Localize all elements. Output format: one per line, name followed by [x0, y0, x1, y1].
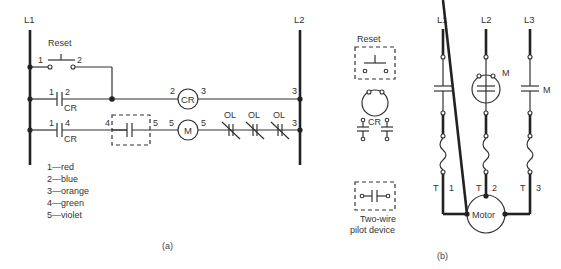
contact-tag: CR: [64, 134, 77, 144]
fuse-heater-l1: [440, 138, 446, 170]
wiring-diagram: L1 L2 Reset 1 2 1 2 CR: [0, 0, 561, 269]
terminal-label: 2: [492, 183, 497, 193]
wire-label: 5: [153, 118, 158, 128]
pilot-symbol-label: pilot device: [350, 225, 395, 235]
terminal-label: T: [520, 183, 526, 193]
caption-a: (a): [162, 241, 173, 251]
wire-color-code: 1—red 2—blue 3—orange 4—green 5—violet: [47, 162, 89, 220]
wire-label: 3: [292, 118, 297, 128]
line-label-l3: L3: [524, 14, 535, 25]
contactor-label: M: [502, 68, 510, 78]
symbol-legend: Reset CR Two-wire pilot device: [350, 34, 396, 235]
ol-label: OL: [273, 110, 285, 120]
contactor-label: M: [543, 85, 551, 95]
figure-a-ladder: L1 L2 Reset 1 2 1 2 CR: [24, 14, 305, 251]
ol-label: OL: [224, 110, 236, 120]
rail-label-l2: L2: [294, 14, 305, 25]
figure-b-power: L1 L2 L3 M: [433, 0, 551, 261]
wire-label: 4: [105, 118, 110, 128]
wire-label: 5: [201, 118, 206, 128]
wire-1: 1: [38, 55, 43, 65]
wire-label: 2: [170, 86, 175, 96]
coil-label: CR: [181, 94, 195, 105]
rail-label-l1: L1: [24, 14, 35, 25]
wire-label: 3: [201, 86, 206, 96]
fuse-heater-l3: [527, 138, 533, 170]
wire-2: 2: [77, 55, 82, 65]
color-code-item: 1—red: [47, 162, 74, 172]
wire-label: 5: [169, 118, 174, 128]
cr-relay-coil-symbol: [362, 90, 388, 116]
terminal-label: T: [476, 183, 482, 193]
contact-tag: CR: [64, 103, 77, 113]
wire-label: 1: [49, 87, 54, 97]
cr-symbol-label: CR: [368, 117, 381, 127]
fuse-heater-l2: [483, 138, 489, 170]
terminal-label: 1: [449, 183, 454, 193]
motor-label: Motor: [472, 210, 495, 220]
wire-label: 1: [49, 118, 54, 128]
pilot-symbol-label: Two-wire: [360, 214, 396, 224]
wire-label: 3: [292, 86, 297, 96]
line-label-l2: L2: [481, 14, 492, 25]
rung-cr-coil: 1 2 CR CR 2 3 3: [27, 86, 302, 113]
color-code-item: 3—orange: [47, 186, 89, 196]
wire-label: 4: [65, 118, 70, 128]
color-code-item: 2—blue: [47, 174, 78, 184]
reset-symbol-label: Reset: [357, 34, 381, 44]
caption-b: (b): [437, 251, 448, 261]
color-code-item: 5—violet: [47, 210, 83, 220]
reset-label: Reset: [48, 38, 72, 48]
rung-motor-coil: 1 4 CR 4 5 5 M 5 OL OL OL: [27, 110, 302, 145]
ol-label: OL: [248, 110, 260, 120]
terminal-label: T: [433, 183, 439, 193]
overload-contacts: OL OL OL: [222, 110, 289, 139]
terminal-label: 3: [536, 183, 541, 193]
coil-label: M: [184, 125, 192, 136]
color-code-item: 4—green: [47, 198, 84, 208]
wire-label: 2: [65, 87, 70, 97]
